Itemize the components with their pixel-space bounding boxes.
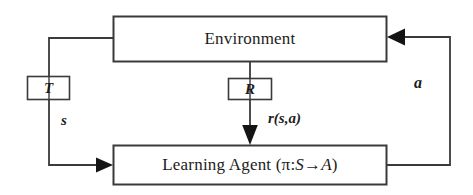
action-edge-label: a [414,74,422,92]
edge-agent-to-environment [387,37,450,165]
environment-box [114,17,387,62]
state-edge-label: s [61,112,67,129]
diagram-vector-layer [0,0,473,195]
arrowhead-into-environment-right [387,29,405,46]
edge-environment-to-transition [49,38,113,77]
learning-agent-box [114,146,387,185]
reward-edge-label: r(s,a) [268,110,301,127]
diagram-canvas: Environment Learning Agent (π: S→A) T R … [0,0,473,195]
arrowhead-into-agent-top [242,125,258,145]
arrowhead-into-agent-left [96,157,113,172]
edge-transition-to-agent [49,100,104,166]
